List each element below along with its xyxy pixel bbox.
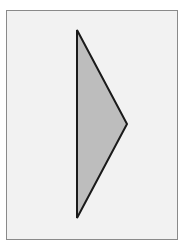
diagram-canvas: [0, 0, 186, 244]
triangle-shape: [77, 30, 127, 218]
